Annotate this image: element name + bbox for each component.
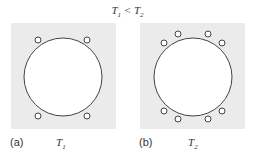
figure-title: T1 < T2 — [0, 4, 255, 19]
panel-a — [11, 23, 116, 129]
sphere-with-particles-diagram — [11, 23, 116, 129]
panel-b-label: (b) — [139, 136, 152, 148]
panel-a-label: (a) — [10, 136, 23, 148]
panel-b — [140, 23, 245, 129]
panel-a-temperature: T1 — [56, 136, 66, 151]
sphere-with-particles-diagram — [140, 23, 245, 129]
panel-b-temperature: T2 — [188, 136, 198, 151]
